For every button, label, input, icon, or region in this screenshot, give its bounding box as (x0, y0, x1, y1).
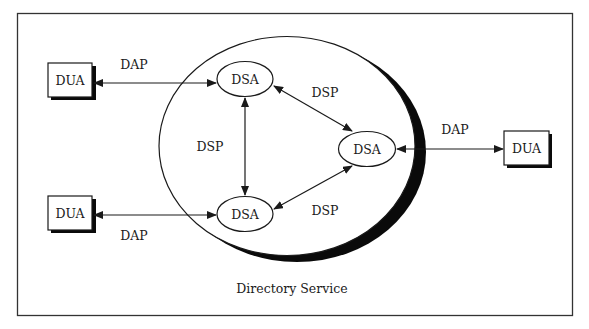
dsa-node-right[interactable]: DSA (339, 132, 396, 167)
dap-label: DAP (120, 57, 147, 72)
dsa-label: DSA (353, 142, 382, 157)
directory-service-caption: Directory Service (236, 281, 347, 296)
dua-node-top-left[interactable]: DUA (48, 63, 96, 100)
dsa-label: DSA (231, 207, 260, 222)
dua-label: DUA (512, 141, 542, 156)
dua-label: DUA (55, 206, 85, 221)
dsa-node-top[interactable]: DSA (217, 62, 273, 97)
dsp-label: DSP (197, 139, 224, 154)
dua-label: DUA (55, 73, 85, 88)
dsa-node-bottom[interactable]: DSA (217, 197, 273, 232)
dua-node-bottom-left[interactable]: DUA (48, 196, 96, 233)
dap-label: DAP (441, 122, 468, 137)
directory-service-diagram: DUA DUA DUA DSA DSA DSA (0, 0, 589, 329)
dap-label: DAP (120, 228, 147, 243)
dsp-label: DSP (312, 203, 339, 218)
dsp-label: DSP (312, 85, 339, 100)
dua-node-right[interactable]: DUA (504, 131, 552, 168)
dsa-label: DSA (231, 72, 260, 87)
